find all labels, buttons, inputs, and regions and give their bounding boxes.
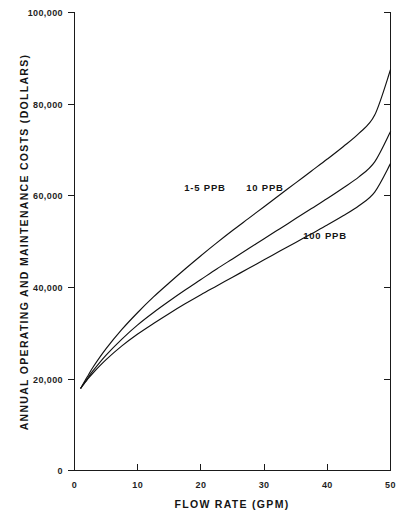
line-chart-svg: 100,000 80,000 60,000 40,000 20,000 0 0 … [0,0,411,520]
curve-100-ppb [81,164,391,388]
series-label-10-ppb: 10 PPB [246,182,284,193]
axis-spines [75,13,391,471]
series-annotations: 1-5 PPB 10 PPB 100 PPB [184,182,347,241]
curve-10-ppb [81,132,391,388]
x-tick-label-30: 30 [259,480,270,490]
y-tick-label-80000: 80,000 [33,100,63,110]
y-axis-tick-labels: 100,000 80,000 60,000 40,000 20,000 0 [28,8,63,476]
curve-1-5-ppb [81,70,391,388]
x-tick-label-0: 0 [72,480,77,490]
y-axis-ticks-left [68,13,75,471]
x-tick-label-10: 10 [132,480,143,490]
series-label-1-5-ppb: 1-5 PPB [184,182,226,193]
y-tick-label-0: 0 [58,466,63,476]
y-axis-title: ANNUAL OPERATING AND MAINTENANCE COSTS (… [18,54,30,431]
x-tick-label-20: 20 [195,480,206,490]
y-tick-label-20000: 20,000 [33,375,63,385]
data-curves [81,70,391,388]
x-axis-tick-labels: 0 10 20 30 40 50 [72,480,396,490]
x-axis-ticks [75,464,391,471]
chart-figure: 100,000 80,000 60,000 40,000 20,000 0 0 … [0,0,411,520]
y-tick-label-100000: 100,000 [28,8,63,18]
y-tick-label-60000: 60,000 [33,191,63,201]
x-tick-label-50: 50 [385,480,396,490]
series-label-100-ppb: 100 PPB [303,230,347,241]
y-axis-ticks-right [384,13,391,380]
y-tick-label-40000: 40,000 [33,283,63,293]
x-tick-label-40: 40 [322,480,333,490]
x-axis-title: FLOW RATE (GPM) [175,498,290,510]
